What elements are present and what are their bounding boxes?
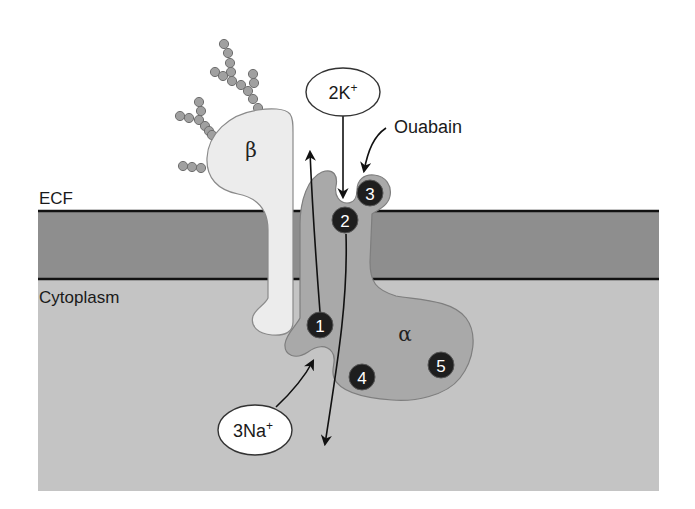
na-k-atpase-diagram: ECF Cytoplasm β α 2K+ Ouabain [0, 0, 695, 509]
sodium-count: 3 [233, 421, 243, 441]
potassium-ion-bubble: 2K+ [306, 68, 380, 116]
ouabain-arrow [364, 128, 386, 171]
ecf-label: ECF [39, 189, 73, 208]
sodium-ion-bubble: 3Na+ [218, 405, 292, 455]
ouabain-label: Ouabain [394, 117, 462, 137]
svg-text:4: 4 [357, 369, 366, 388]
beta-label: β [245, 138, 257, 162]
alpha-label: α [398, 322, 412, 346]
svg-text:3: 3 [365, 185, 374, 204]
cytoplasm-label: Cytoplasm [39, 288, 119, 307]
svg-text:1: 1 [315, 317, 324, 336]
binding-site-1: 1 [307, 312, 333, 338]
binding-site-2: 2 [332, 207, 358, 233]
binding-site-5: 5 [428, 352, 454, 378]
binding-site-3: 3 [357, 180, 383, 206]
svg-text:2: 2 [340, 212, 349, 231]
potassium-count: 2 [328, 83, 338, 103]
binding-site-4: 4 [349, 364, 375, 390]
potassium-symbol: K [338, 83, 350, 103]
sodium-symbol: Na [243, 421, 267, 441]
sodium-charge: + [266, 419, 273, 433]
potassium-charge: + [351, 81, 358, 95]
svg-text:5: 5 [436, 357, 445, 376]
